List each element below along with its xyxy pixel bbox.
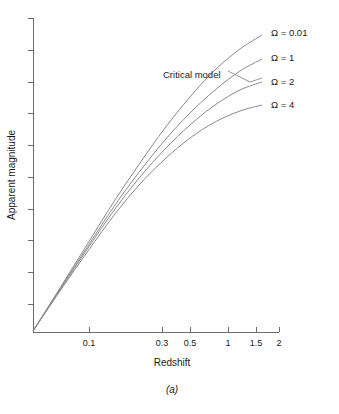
curve-series-2: [33, 82, 262, 331]
x-axis-ticks: [89, 327, 279, 332]
x-axis-tick-labels: 0.10.30.511.52: [83, 338, 282, 348]
series-label-0: Ω = 0.01: [271, 27, 307, 38]
x-axis-tick-label: 0.3: [156, 338, 169, 348]
x-axis-tick-label: 0.1: [83, 338, 96, 348]
y-axis-title: Apparent magnitude: [6, 130, 17, 221]
x-axis-tick-label: 0.5: [184, 338, 197, 348]
series-label-3: Ω = 4: [271, 99, 294, 110]
x-axis-tick-label: 1: [225, 338, 230, 348]
critical-model-annotation: Critical model: [163, 69, 221, 80]
curve-series-3: [33, 105, 262, 331]
series-label-2: Ω = 2: [271, 76, 294, 87]
apparent-magnitude-vs-redshift-chart: 0.10.30.511.52 Ω = 0.01Ω = 1Ω = 2Ω = 4 C…: [0, 0, 339, 414]
y-axis-ticks: [28, 18, 33, 304]
curve-series-1: [33, 59, 262, 331]
figure-container: 0.10.30.511.52 Ω = 0.01Ω = 1Ω = 2Ω = 4 C…: [0, 0, 339, 414]
data-curves: [33, 35, 262, 331]
figure-caption: (a): [166, 384, 178, 395]
series-label-1: Ω = 1: [271, 52, 294, 63]
series-labels: Ω = 0.01Ω = 1Ω = 2Ω = 4: [271, 27, 307, 110]
x-axis-title: Redshift: [154, 357, 191, 368]
x-axis-tick-label: 2: [276, 338, 281, 348]
x-axis-tick-label: 1.5: [250, 338, 263, 348]
critical-model-leader-line: [228, 71, 262, 82]
